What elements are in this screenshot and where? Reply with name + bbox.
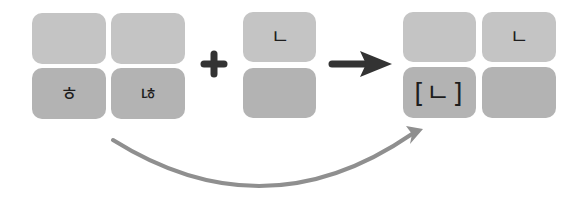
plus-icon xyxy=(204,54,224,74)
right-arrow-icon xyxy=(332,51,392,77)
diagram-overlay xyxy=(0,0,582,205)
curved-arrow-icon xyxy=(113,126,423,186)
